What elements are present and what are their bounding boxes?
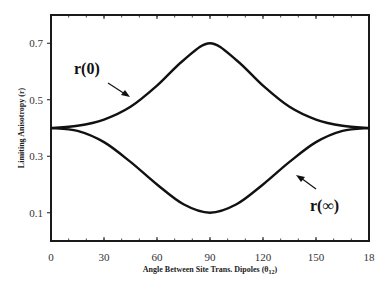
x-tick-label: 120	[255, 251, 272, 263]
annotation-r0: r(0)	[74, 60, 130, 97]
label-r0: r(0)	[74, 60, 100, 78]
x-tick-label: 90	[205, 251, 217, 263]
curve-r0	[51, 43, 369, 128]
x-tick-label: 0	[48, 251, 54, 263]
x-tick-label: 60	[152, 251, 164, 263]
y-tick-label: 0.1	[29, 207, 43, 219]
x-tick-label: 18	[364, 251, 376, 263]
arrowhead-rinf	[296, 175, 305, 182]
arrow-rinf	[301, 178, 316, 189]
x-tick-label: 30	[99, 251, 111, 263]
y-tick-label: 0.5	[29, 94, 43, 106]
y-axis-title: Limiting Anisotropy (r)	[17, 88, 26, 169]
y-tick-label: 0.7	[29, 37, 43, 49]
arrowhead-r0	[121, 90, 130, 97]
y-tick-label: 0.3	[29, 150, 43, 162]
label-rinf: r(∞)	[310, 197, 339, 215]
annotation-rinf: r(∞)	[296, 175, 339, 215]
x-axis-title: Angle Between Site Trans. Dipoles (θ12)	[143, 265, 278, 275]
anisotropy-chart: 0306090120150180.10.30.50.7 Limiting Ani…	[0, 0, 387, 290]
arrow-r0	[108, 83, 125, 94]
x-tick-label: 150	[308, 251, 325, 263]
